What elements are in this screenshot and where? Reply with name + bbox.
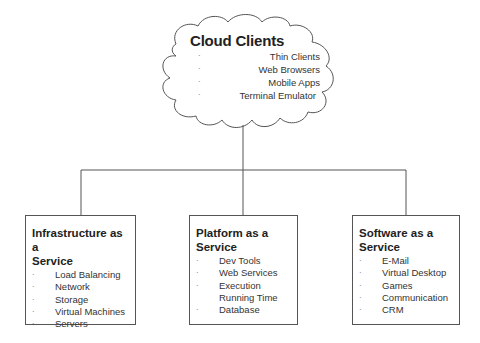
cloud-title: Cloud Clients [190,32,330,49]
list-item: ·Load Balancing [32,269,129,281]
list-item: ·Communication [359,292,453,304]
box-list: ·Load Balancing ·Network ·Storage ·Virtu… [32,269,129,330]
box-title: Platform as a Service [196,226,291,254]
box-title: Infrastructure as a Service [32,226,129,268]
bullet-icon: · [198,90,201,99]
box-list: ·Dev Tools ·Web Services ·Execution Runn… [196,255,291,316]
list-item: ·Storage [32,294,129,306]
box-list: ·E-Mail ·Virtual Desktop ·Games ·Communi… [359,255,453,316]
list-item: ·Virtual Desktop [359,267,453,279]
bullet-icon: · [196,304,199,316]
cloud-clients-node: Cloud Clients · Thin Clients · Web Brows… [190,32,330,103]
bullet-icon: · [32,294,35,306]
list-item: ·CRM [359,304,453,316]
bullet-icon: · [198,77,201,86]
bullet-icon: · [359,304,362,316]
list-item: ·Network [32,281,129,293]
bullet-icon: · [32,306,35,318]
paas-box: Platform as a Service ·Dev Tools ·Web Se… [189,215,298,325]
cloud-item: · Terminal Emulator [190,90,330,103]
bullet-icon: · [359,280,362,292]
list-item: ·Execution Running Time [196,280,291,305]
bullet-icon: · [198,64,201,73]
bullet-icon: · [196,255,199,267]
list-item: ·Web Services [196,267,291,279]
cloud-item: · Thin Clients [190,51,330,64]
cloud-item: · Web Browsers [190,64,330,77]
bullet-icon: · [32,318,35,330]
list-item: ·Virtual Machines [32,306,129,318]
cloud-list: · Thin Clients · Web Browsers · Mobile A… [190,51,330,103]
list-item: ·Database [196,304,291,316]
bullet-icon: · [32,269,35,281]
saas-box: Software as a Service ·E-Mail ·Virtual D… [352,215,460,325]
list-item: ·Dev Tools [196,255,291,267]
bullet-icon: · [32,281,35,293]
list-item: ·Servers [32,318,129,330]
iaas-box: Infrastructure as a Service ·Load Balanc… [25,215,136,325]
bullet-icon: · [359,292,362,304]
bullet-icon: · [359,267,362,279]
bullet-icon: · [198,51,201,60]
box-title: Software as a Service [359,226,453,254]
list-item: ·E-Mail [359,255,453,267]
cloud-item: · Mobile Apps [190,77,330,90]
bullet-icon: · [196,280,199,292]
bullet-icon: · [196,267,199,279]
bullet-icon: · [359,255,362,267]
list-item: ·Games [359,280,453,292]
